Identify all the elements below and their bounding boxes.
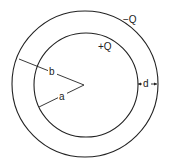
outer-charge-label: −Q <box>123 14 137 25</box>
radius-a-label: a <box>59 91 65 102</box>
gap-d-label: d <box>143 78 149 89</box>
gap-arrow-right-icon <box>154 83 157 86</box>
radius-b-label: b <box>49 66 55 77</box>
inner-sphere <box>34 33 138 137</box>
inner-charge-label: +Q <box>98 41 112 52</box>
capacitor-diagram: b a d −Q +Q <box>0 0 169 166</box>
